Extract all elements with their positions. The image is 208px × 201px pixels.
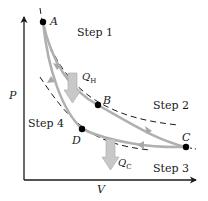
point-d-marker (79, 126, 85, 132)
carnot-cycle-diagram: A B C D Step 1 Step 2 Step 3 Step 4 QH Q… (0, 0, 208, 201)
step-2-label: Step 2 (153, 99, 189, 112)
direction-arrow-step3 (137, 141, 144, 149)
heat-cold-label: QC (118, 157, 132, 171)
x-axis-label: V (97, 183, 106, 196)
point-a-marker (40, 19, 46, 25)
point-c-label: C (182, 131, 191, 144)
y-axis-label: P (8, 89, 17, 102)
step-3-label: Step 3 (153, 162, 189, 175)
path-step3-c-to-d (82, 129, 186, 147)
point-b-marker (95, 102, 101, 108)
point-c-marker (183, 144, 189, 150)
point-a-label: A (49, 15, 58, 28)
heat-hot-label: QH (82, 71, 96, 85)
step-4-label: Step 4 (28, 117, 64, 130)
tail-dash-c (190, 148, 196, 149)
point-d-label: D (71, 134, 81, 147)
point-b-label: B (102, 94, 111, 107)
step-1-label: Step 1 (77, 26, 113, 39)
